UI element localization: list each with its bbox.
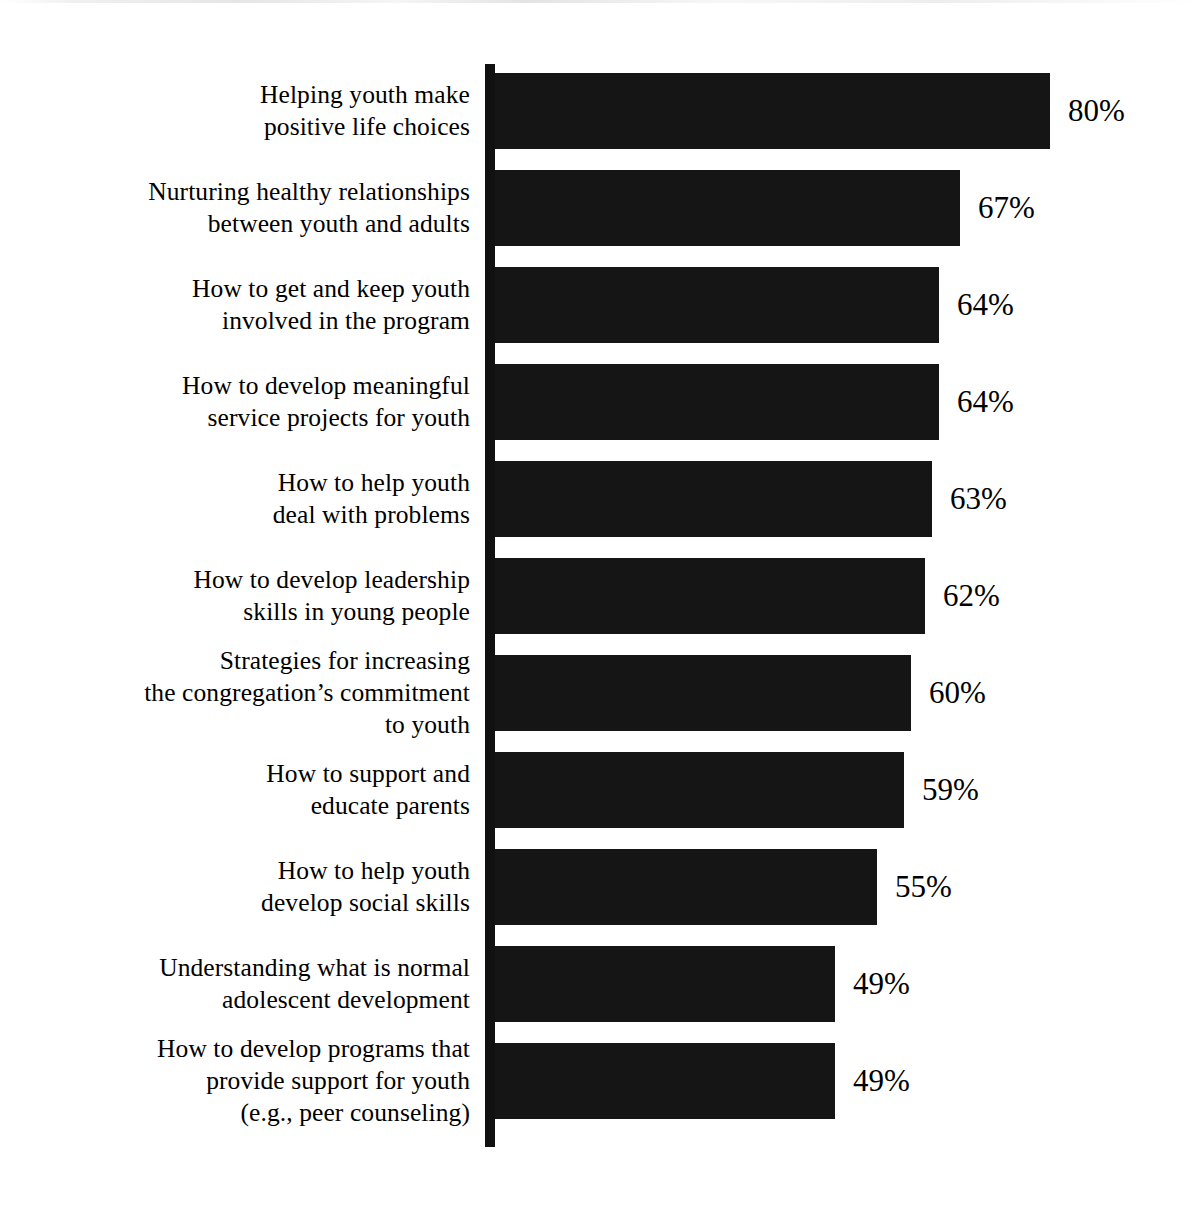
bar-row: Understanding what is normal adolescent … [0, 946, 1200, 1022]
bar-category-label: Strategies for increasing the congregati… [10, 645, 470, 741]
bar-value-label: 60% [929, 677, 986, 708]
bar-category-label: How to get and keep youth involved in th… [10, 273, 470, 337]
bar-value-label: 67% [978, 192, 1035, 223]
bar-category-label: How to help youth develop social skills [10, 855, 470, 919]
bar-value-label: 64% [957, 289, 1014, 320]
bar-category-label: How to develop meaningful service projec… [10, 370, 470, 434]
bar-value-label: 49% [853, 1065, 910, 1096]
bar [495, 849, 877, 925]
bar-value-label: 49% [853, 968, 910, 999]
bar [495, 558, 925, 634]
plot-area: Helping youth make positive life choices… [0, 0, 1200, 1211]
bar [495, 267, 939, 343]
bar-row: How to get and keep youth involved in th… [0, 267, 1200, 343]
bar [495, 461, 932, 537]
bar [495, 1043, 835, 1119]
bar [495, 946, 835, 1022]
bar-chart-page: Helping youth make positive life choices… [0, 0, 1200, 1211]
bar-category-label: How to develop leadership skills in youn… [10, 564, 470, 628]
bar-category-label: Nurturing healthy relationships between … [10, 176, 470, 240]
bar-row: Strategies for increasing the congregati… [0, 655, 1200, 731]
bar-category-label: Understanding what is normal adolescent … [10, 952, 470, 1016]
bar-row: How to develop meaningful service projec… [0, 364, 1200, 440]
bar-row: How to develop leadership skills in youn… [0, 558, 1200, 634]
bar [495, 170, 960, 246]
bar-value-label: 64% [957, 386, 1014, 417]
bar-row: How to help youth deal with problems63% [0, 461, 1200, 537]
bar-row: How to help youth develop social skills5… [0, 849, 1200, 925]
bar-category-label: How to support and educate parents [10, 758, 470, 822]
bar-value-label: 62% [943, 580, 1000, 611]
bar-category-label: Helping youth make positive life choices [10, 79, 470, 143]
bar-category-label: How to help youth deal with problems [10, 467, 470, 531]
bar-row: Helping youth make positive life choices… [0, 73, 1200, 149]
bar-value-label: 55% [895, 871, 952, 902]
bar-value-label: 80% [1068, 95, 1125, 126]
bar [495, 752, 904, 828]
bar-row: Nurturing healthy relationships between … [0, 170, 1200, 246]
bar [495, 364, 939, 440]
bar [495, 655, 911, 731]
bar [495, 73, 1050, 149]
bar-row: How to develop programs that provide sup… [0, 1043, 1200, 1119]
bar-value-label: 59% [922, 774, 979, 805]
bar-category-label: How to develop programs that provide sup… [10, 1033, 470, 1129]
bar-value-label: 63% [950, 483, 1007, 514]
bar-row: How to support and educate parents59% [0, 752, 1200, 828]
